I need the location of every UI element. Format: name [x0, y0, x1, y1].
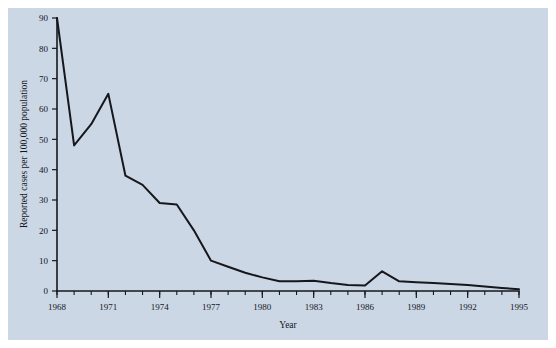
x-tick-label: 1968 [48, 302, 67, 312]
y-tick-label: 10 [39, 256, 49, 266]
x-axis-title: Year [279, 320, 297, 330]
y-tick-label: 20 [39, 226, 49, 236]
y-tick-label: 90 [39, 13, 49, 23]
x-tick-label: 1986 [356, 302, 375, 312]
x-tick-label: 1983 [305, 302, 324, 312]
y-tick-label: 30 [39, 195, 49, 205]
y-axis-title: Reported cases per 100,000 population [19, 80, 29, 228]
data-series-line [57, 18, 519, 289]
y-tick-label: 60 [39, 104, 49, 114]
x-tick-labels: 1968197119741977198019831986198919921995 [48, 302, 529, 312]
y-tick-label: 40 [39, 165, 49, 175]
y-tick-label: 80 [39, 44, 49, 54]
y-tick-label: 70 [39, 74, 49, 84]
y-axis-group: 0102030405060708090 Reported cases per 1… [19, 13, 57, 296]
line-chart: 0102030405060708090 Reported cases per 1… [0, 0, 556, 348]
x-tick-label: 1992 [459, 302, 477, 312]
y-tick-labels: 0102030405060708090 [39, 13, 49, 296]
x-tick-label: 1974 [151, 302, 170, 312]
chart-page: 0102030405060708090 Reported cases per 1… [0, 0, 556, 348]
x-tick-label: 1977 [202, 302, 221, 312]
x-tick-label: 1971 [99, 302, 117, 312]
y-tick-label: 50 [39, 135, 49, 145]
x-axis-group: 1968197119741977198019831986198919921995… [48, 291, 529, 330]
x-major-tick-marks [57, 291, 519, 298]
x-tick-label: 1995 [510, 302, 529, 312]
y-tick-label: 0 [44, 286, 49, 296]
x-tick-label: 1980 [253, 302, 272, 312]
x-tick-label: 1989 [407, 302, 426, 312]
